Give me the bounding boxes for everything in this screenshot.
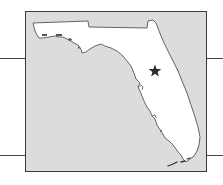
east-coast-detail bbox=[177, 69, 178, 71]
left-lower-rule bbox=[0, 155, 25, 156]
right-upper-rule bbox=[207, 58, 223, 59]
map-frame: Florida Marked location in central Flori… bbox=[25, 11, 207, 172]
right-lower-rule bbox=[207, 155, 223, 156]
florida-map bbox=[26, 12, 207, 172]
florida-landmass bbox=[33, 20, 200, 162]
left-upper-rule bbox=[0, 58, 25, 59]
